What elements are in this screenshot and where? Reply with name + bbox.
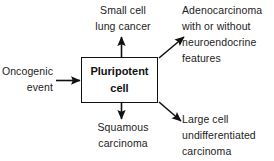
node-label-large-cell-undifferentiated-carcinoma: Large cell undifferentiated carcinoma [182, 111, 274, 159]
node-label-oncogenic-event: Oncogenic event [0, 63, 53, 95]
node-label-squamous-carcinoma: Squamous carcinoma [84, 119, 162, 151]
node-label-adenocarcinoma: Adenocarcinoma with or without neuroendo… [182, 2, 274, 66]
pathway-diagram: Small cell lung cancer Adenocarcinoma wi… [0, 0, 274, 161]
node-pluripotent-cell: Pluripotent cell [81, 57, 158, 103]
arrow-cell-to-large-cell-carcinoma [159, 102, 181, 121]
node-label-small-cell-lung-cancer: Small cell lung cancer [84, 2, 162, 34]
node-pluripotent-cell-line2: cell [110, 80, 128, 97]
node-pluripotent-cell-line1: Pluripotent [90, 63, 148, 80]
arrow-cell-to-adenocarcinoma [159, 37, 184, 58]
